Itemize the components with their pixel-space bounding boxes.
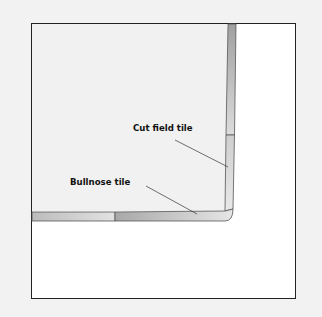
bullnose-tile-leader — [146, 186, 197, 214]
vertical-bullnose-tile — [226, 24, 236, 135]
cut-field-tile-leader — [175, 140, 228, 167]
bullnose-tile-label: Bullnose tile — [70, 177, 130, 187]
bullnose-tile — [115, 209, 233, 221]
cut-field-tile — [225, 135, 235, 211]
cut-field-tile-label: Cut field tile — [133, 123, 193, 133]
horizontal-field-tile — [32, 212, 115, 221]
tile-diagram — [0, 0, 322, 317]
